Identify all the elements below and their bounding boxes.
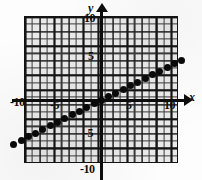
data-point (32, 130, 39, 137)
data-point (112, 90, 119, 97)
y-tick-label-10: 10 (84, 12, 95, 24)
data-point (54, 119, 61, 126)
x-axis-label: x (189, 91, 195, 103)
x-tick-label-neg10: -10 (10, 96, 25, 108)
data-point (10, 141, 17, 148)
x-tick-label-5: 5 (126, 99, 132, 111)
x-tick-label-10: 10 (164, 99, 175, 111)
data-point (134, 79, 141, 86)
y-tick-label-neg10: -10 (80, 163, 95, 175)
data-point (164, 64, 171, 71)
data-point (18, 137, 25, 144)
data-point (76, 108, 83, 115)
y-tick-label-5: 5 (88, 50, 94, 62)
data-point (69, 111, 76, 118)
data-point (120, 86, 127, 93)
y-axis-line (100, 8, 103, 180)
coordinate-plane-figure: y x 10 5 -5 -10 -10 -5 5 10 (0, 0, 202, 180)
y-axis-arrow-icon (96, 3, 108, 12)
y-tick-label-neg5: -5 (84, 127, 93, 139)
data-point (91, 100, 98, 107)
x-tick-label-neg5: -5 (50, 99, 59, 111)
data-point (156, 68, 163, 75)
data-point (142, 75, 149, 82)
data-point (98, 97, 105, 104)
data-point (178, 57, 185, 64)
